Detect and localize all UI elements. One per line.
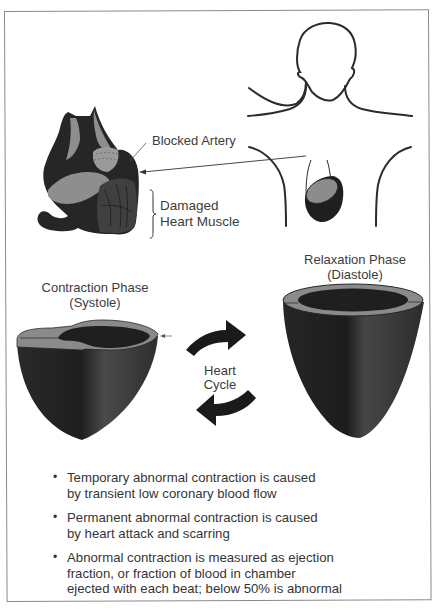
cycle-arrow-forward-icon[interactable] xyxy=(186,320,246,356)
bullet-line: fraction, or fraction of blood in chambe… xyxy=(67,566,392,582)
bullet-item-permanent: • Permanent abnormal contraction is caus… xyxy=(52,510,392,541)
blocked-artery-label: Blocked Artery xyxy=(152,133,236,148)
bullet-item-ejection-fraction: • Abnormal contraction is measured as ej… xyxy=(52,550,392,597)
relaxation-phase-subtitle: (Diastole) xyxy=(290,267,420,282)
key-points-list: • Temporary abnormal contraction is caus… xyxy=(52,470,392,606)
small-heart-icon xyxy=(302,173,343,222)
bullet-line: Temporary abnormal contraction is caused xyxy=(67,470,392,486)
contraction-phase-subtitle: (Systole) xyxy=(30,295,160,310)
damaged-heart-muscle-line-1: Damaged xyxy=(160,198,240,214)
bullet-line: by heart attack and scarring xyxy=(67,526,392,542)
blocked-artery-leader xyxy=(130,143,146,161)
heart-cycle-line-2: Cycle xyxy=(195,378,245,392)
bullet-line: Abnormal contraction is measured as ejec… xyxy=(67,550,392,566)
heart-cycle-line-1: Heart xyxy=(195,364,245,378)
bullet-item-temporary: • Temporary abnormal contraction is caus… xyxy=(52,470,392,501)
contraction-phase-title: Contraction Phase xyxy=(30,280,160,295)
bullet-icon: • xyxy=(53,510,57,526)
contraction-phase-label: Contraction Phase (Systole) xyxy=(30,280,160,310)
damaged-heart-muscle-line-2: Heart Muscle xyxy=(160,214,240,230)
systole-heart-icon xyxy=(17,320,172,440)
diastole-heart-icon xyxy=(283,284,424,438)
bullet-line: ejected with each beat; below 50% is abn… xyxy=(67,581,392,597)
brace-icon xyxy=(150,190,156,238)
bullet-icon: • xyxy=(53,550,57,566)
damaged-heart-cross-section-icon xyxy=(38,106,139,235)
bullet-line: by transient low coronary blood flow xyxy=(67,486,392,502)
bullet-line: Permanent abnormal contraction is caused xyxy=(67,510,392,526)
clipped-caption-fragment xyxy=(0,610,438,616)
heart-cycle-label: Heart Cycle xyxy=(195,364,245,392)
relaxation-phase-title: Relaxation Phase xyxy=(290,252,420,267)
damaged-heart-muscle-label: Damaged Heart Muscle xyxy=(160,198,240,230)
relaxation-phase-label: Relaxation Phase (Diastole) xyxy=(290,252,420,282)
cycle-arrow-back-icon[interactable] xyxy=(196,390,256,426)
pointer-arrow-icon xyxy=(139,156,306,175)
bullet-icon: • xyxy=(53,470,57,486)
